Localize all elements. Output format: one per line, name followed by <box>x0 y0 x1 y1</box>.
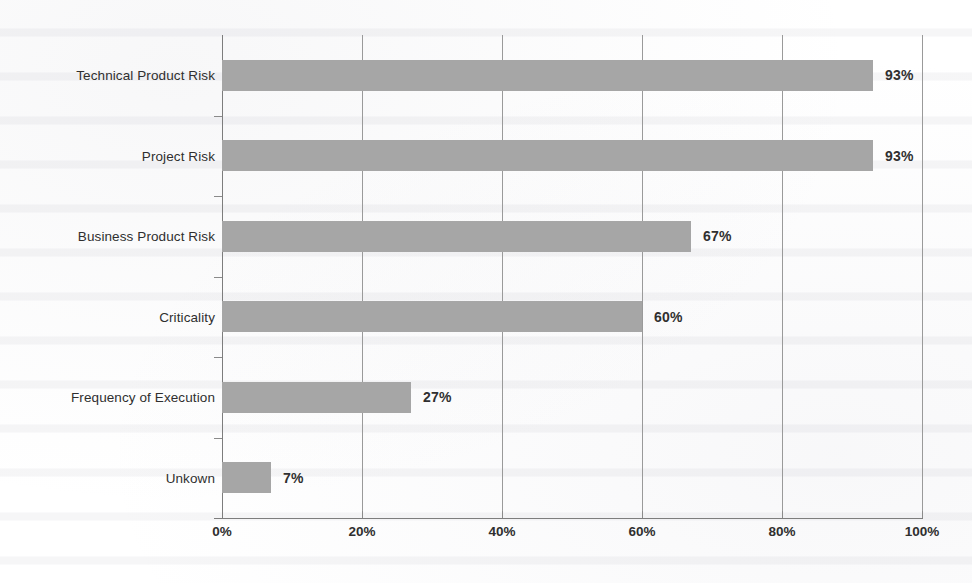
x-axis-line <box>214 518 923 519</box>
bar-value-label-unkown: 7% <box>283 470 304 486</box>
bar-value-label-frequency-of-execution: 27% <box>423 389 452 405</box>
bar-row: 93% <box>0 140 972 171</box>
bar-technical-product-risk[interactable] <box>222 60 873 91</box>
bar-value-label-criticality: 60% <box>654 309 683 325</box>
y-axis-tick-5 <box>214 438 222 439</box>
gridline-60 <box>642 35 643 518</box>
bar-value-label-business-product-risk: 67% <box>703 228 732 244</box>
bar-value-label-project-risk: 93% <box>885 148 914 164</box>
gridline-20 <box>362 35 363 518</box>
bar-project-risk[interactable] <box>222 140 873 171</box>
bar-row: 27% <box>0 382 972 413</box>
y-axis-tick-1 <box>214 116 222 117</box>
gridline-100 <box>922 35 923 518</box>
bar-row: 60% <box>0 301 972 332</box>
horizontal-bar-chart: 0%20%40%60%80%100% Technical Product Ris… <box>0 0 972 583</box>
gridline-40 <box>502 35 503 518</box>
x-axis-tick-label-60: 60% <box>628 524 655 539</box>
y-axis-tick-2 <box>214 196 222 197</box>
x-axis-tick-label-0: 0% <box>212 524 232 539</box>
x-axis-tick-label-40: 40% <box>488 524 515 539</box>
bar-unkown[interactable] <box>222 462 271 493</box>
y-axis-tick-3 <box>214 277 222 278</box>
bar-criticality[interactable] <box>222 301 642 332</box>
x-axis-tick-label-100: 100% <box>905 524 940 539</box>
bar-frequency-of-execution[interactable] <box>222 382 411 413</box>
bar-business-product-risk[interactable] <box>222 221 691 252</box>
x-axis-tick-label-80: 80% <box>768 524 795 539</box>
bar-row: 93% <box>0 60 972 91</box>
bar-value-label-technical-product-risk: 93% <box>885 67 914 83</box>
gridline-80 <box>782 35 783 518</box>
bar-row: 7% <box>0 462 972 493</box>
x-axis-tick-label-20: 20% <box>348 524 375 539</box>
y-axis-tick-4 <box>214 357 222 358</box>
bar-row: 67% <box>0 221 972 252</box>
y-axis-line <box>222 35 223 519</box>
